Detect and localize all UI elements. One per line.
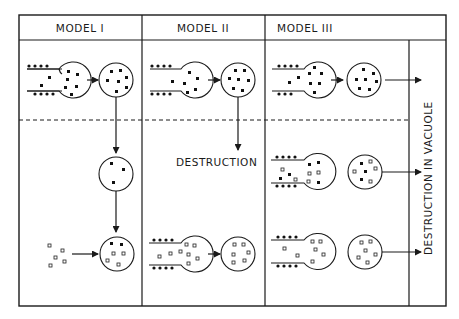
model-1-vacuole-2 bbox=[99, 157, 133, 191]
model-3-vacuole-1 bbox=[347, 63, 381, 97]
model-2-vacuole-2 bbox=[221, 237, 255, 271]
model-1-free-open-particles bbox=[48, 244, 66, 267]
model-2-endocytosis-cell bbox=[150, 62, 213, 98]
model-1-endocytosis-cell bbox=[27, 62, 91, 98]
model-3-endocytosis-cell-1 bbox=[272, 62, 336, 98]
model-3-endocytosis-cell-3 bbox=[271, 234, 336, 270]
model-1-vacuole-1 bbox=[99, 63, 133, 97]
model-3-endocytosis-cell-2 bbox=[271, 154, 336, 190]
header-model-1: MODEL I bbox=[56, 22, 105, 34]
destruction-label: DESTRUCTION bbox=[176, 156, 257, 168]
model-3-vacuole-3 bbox=[348, 235, 382, 269]
model-diagram: MODEL I MODEL II MODEL III bbox=[0, 0, 459, 319]
model-2-endocytosis-cell-open bbox=[149, 236, 213, 272]
header-model-3: MODEL III bbox=[277, 22, 333, 34]
model-1-vacuole-3 bbox=[100, 237, 134, 271]
destruction-in-vacuole-label: DESTRUCTION IN VACUOLE bbox=[422, 101, 434, 255]
model-2-vacuole-1 bbox=[221, 63, 255, 97]
model-3-vacuole-2 bbox=[348, 155, 382, 189]
header-model-2: MODEL II bbox=[177, 22, 229, 34]
